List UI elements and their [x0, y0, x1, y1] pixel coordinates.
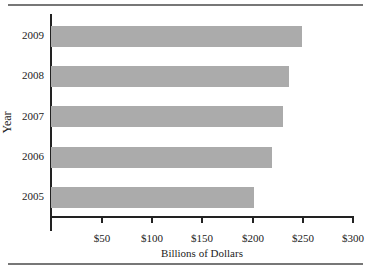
- x-tick: [151, 216, 153, 223]
- y-tick-label: 2009: [0, 29, 44, 41]
- x-tick: [302, 216, 304, 223]
- x-tick-label: $200: [242, 232, 264, 244]
- x-tick-label: $250: [292, 232, 314, 244]
- x-tick: [101, 216, 103, 223]
- bar-2007: [51, 106, 283, 127]
- bottom-rule: [8, 263, 363, 265]
- y-tick-label: 2006: [0, 150, 44, 162]
- top-rule: [8, 4, 363, 6]
- x-tick-label: $300: [342, 232, 364, 244]
- bar-2006: [51, 147, 272, 168]
- x-tick: [201, 216, 203, 223]
- x-tick-label: $150: [191, 232, 213, 244]
- x-axis-title: Billions of Dollars: [161, 247, 243, 259]
- bar-2008: [51, 66, 289, 87]
- y-axis-title: Year: [0, 111, 15, 133]
- y-tick-label: 2005: [0, 190, 44, 202]
- y-tick-label: 2008: [0, 69, 44, 81]
- x-tick-label: $50: [94, 232, 111, 244]
- x-tick-label: $100: [141, 232, 163, 244]
- bar-2005: [51, 187, 254, 208]
- x-tick: [252, 216, 254, 223]
- bar-2009: [51, 26, 302, 47]
- x-tick: [352, 216, 354, 223]
